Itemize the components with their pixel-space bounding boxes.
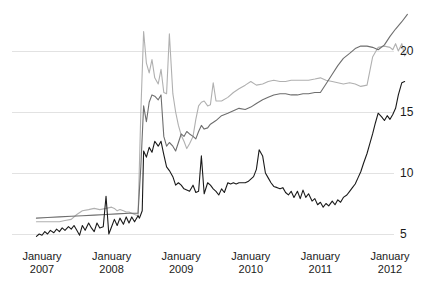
x-tick-year: 2010 [231, 263, 270, 276]
x-tick-year: 2008 [92, 263, 131, 276]
x-tick-month: January [92, 250, 131, 262]
series-line-medium-gray-series [36, 14, 407, 218]
x-tick-month: January [162, 250, 201, 262]
x-tick-month: January [231, 250, 270, 262]
x-tick-year: 2009 [162, 263, 201, 276]
x-tick-label-2008: January2008 [92, 250, 131, 276]
x-tick-year: 2012 [370, 263, 409, 276]
x-tick-label-2011: January2011 [301, 250, 340, 276]
line-chart-plot [0, 0, 424, 287]
x-tick-month: January [370, 250, 409, 262]
y-tick-label-5: 5 [400, 228, 407, 240]
series-line-light-gray-series [36, 31, 407, 221]
x-tick-month: January [22, 250, 61, 262]
x-tick-label-2010: January2010 [231, 250, 270, 276]
x-tick-label-2012: January2012 [370, 250, 409, 276]
series-line-dark-series [36, 82, 404, 237]
y-tick-label-20: 20 [400, 45, 413, 57]
x-tick-label-2009: January2009 [162, 250, 201, 276]
x-tick-month: January [301, 250, 340, 262]
y-tick-label-10: 10 [400, 167, 413, 179]
data-series-group [36, 14, 407, 236]
chart-container: 5101520 January2007January2008January200… [0, 0, 424, 287]
x-tick-year: 2007 [22, 263, 61, 276]
y-tick-label-15: 15 [400, 106, 413, 118]
x-tick-year: 2011 [301, 263, 340, 276]
x-tick-label-2007: January2007 [22, 250, 61, 276]
gridlines [12, 51, 394, 234]
